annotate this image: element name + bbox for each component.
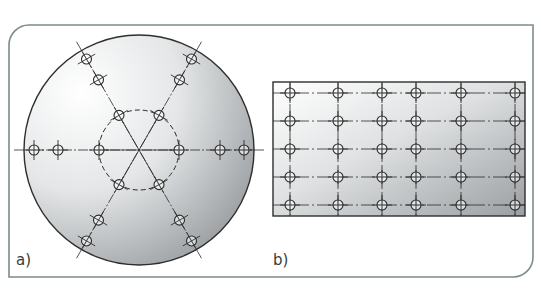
technical-drawing	[0, 0, 541, 290]
panel-b-rectangular-plate	[273, 82, 525, 216]
panel-a-circular-plate	[14, 35, 264, 265]
rectangular-plate-outline	[273, 82, 525, 216]
panel-b-label: b)	[273, 251, 288, 269]
panel-a-label: a)	[16, 251, 31, 269]
figure-canvas: a) b)	[0, 0, 541, 290]
